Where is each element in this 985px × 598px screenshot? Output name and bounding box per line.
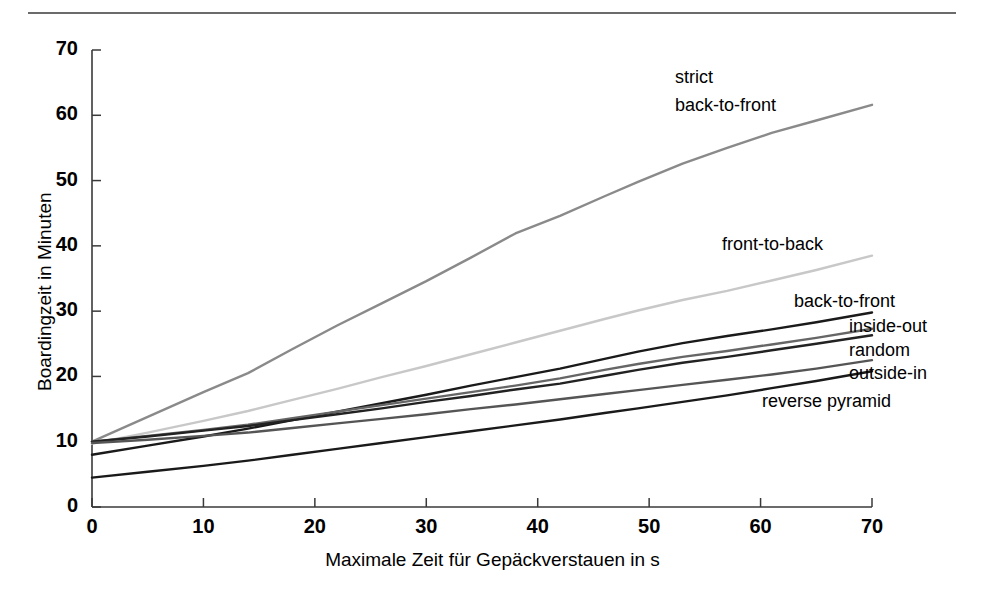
x-tick-label: 40 <box>516 515 560 538</box>
series-label-strict-back-to-front-line2: back-to-front <box>675 96 776 115</box>
x-tick-label: 10 <box>181 515 225 538</box>
series-line-inside-out <box>92 329 872 442</box>
x-tick-label: 50 <box>627 515 671 538</box>
chart-figure: 0 10 20 30 40 50 60 70 0 10 20 30 40 50 … <box>0 0 985 598</box>
y-axis-title: Boardingzeit in Minuten <box>34 192 56 391</box>
y-tick-label: 60 <box>30 102 78 125</box>
x-tick-label: 60 <box>739 515 783 538</box>
x-axis-title: Maximale Zeit für Gepäckverstauen in s <box>0 549 985 571</box>
y-tick-label: 0 <box>30 494 78 517</box>
x-tick-label: 0 <box>70 515 114 538</box>
y-tick-label: 10 <box>30 429 78 452</box>
series-line-front-to-back <box>92 256 872 444</box>
chart-axes <box>92 50 872 507</box>
chart-tick-marks <box>92 50 872 507</box>
series-label-reverse-pyramid: reverse pyramid <box>762 392 891 411</box>
x-tick-label: 70 <box>850 515 894 538</box>
series-label-outside-in: outside-in <box>849 364 927 383</box>
series-line-reverse-pyramid <box>92 371 872 477</box>
series-line-back-to-front <box>92 312 872 454</box>
series-label-inside-out: inside-out <box>849 317 927 336</box>
series-label-random: random <box>849 341 910 360</box>
series-label-strict-back-to-front-line1: strict <box>675 68 713 87</box>
y-tick-label: 70 <box>30 37 78 60</box>
series-label-front-to-back: front-to-back <box>722 235 823 254</box>
series-label-back-to-front: back-to-front <box>794 292 895 311</box>
x-tick-label: 30 <box>404 515 448 538</box>
x-tick-label: 20 <box>293 515 337 538</box>
y-tick-label: 50 <box>30 168 78 191</box>
chart-series-lines <box>92 105 872 478</box>
